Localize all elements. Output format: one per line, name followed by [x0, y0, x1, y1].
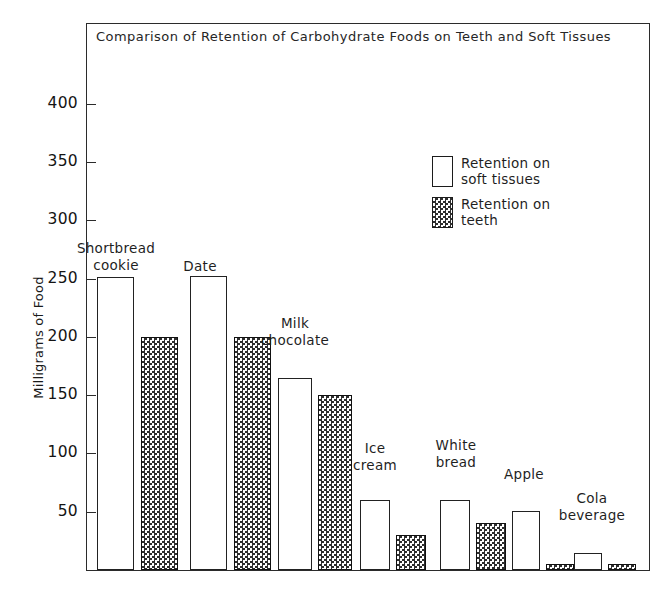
bar-soft-tissues [512, 511, 540, 570]
open-rectangle-swatch-icon [432, 156, 453, 187]
bar-group-label: Shortbread cookie [61, 240, 171, 274]
bar-group-label: Date [160, 258, 240, 275]
bar-soft-tissues [278, 378, 312, 570]
bar-soft-tissues [97, 277, 134, 570]
bar-group-label: Apple [489, 466, 559, 483]
legend-label-teeth: Retention on teeth [461, 196, 550, 228]
bar-teeth [234, 337, 271, 570]
bar-soft-tissues [440, 500, 470, 570]
bar-group-label: Milk chocolate [250, 315, 340, 349]
legend-item-teeth: Retention on teeth [432, 196, 550, 228]
legend-item-soft-tissues: Retention on soft tissues [432, 155, 550, 187]
bar-group-label: Cola beverage [552, 490, 632, 524]
bar-teeth [476, 523, 506, 570]
bar-group-label: White bread [416, 437, 496, 471]
bar-teeth [608, 564, 636, 570]
bar-soft-tissues [574, 553, 602, 570]
bar-group-label: Ice cream [340, 440, 410, 474]
bar-teeth [141, 337, 178, 570]
legend: Retention on soft tissues Retention on t… [432, 155, 550, 237]
bar-chart: Milligrams of Food Comparison of Retenti… [0, 0, 671, 593]
legend-label-soft-tissues: Retention on soft tissues [461, 155, 550, 187]
bar-teeth [318, 395, 352, 570]
bar-soft-tissues [190, 276, 227, 570]
bar-teeth [396, 535, 426, 570]
bars-layer: Shortbread cookieDateMilk chocolateIce c… [0, 0, 671, 593]
bar-soft-tissues [360, 500, 390, 570]
checkered-rectangle-swatch-icon [432, 197, 453, 228]
bar-teeth [546, 564, 574, 570]
